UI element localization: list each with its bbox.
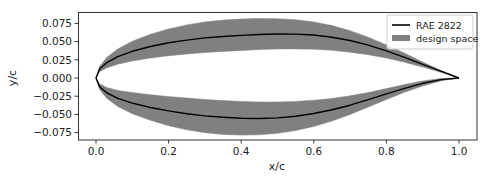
legend-label-design-space: design space xyxy=(416,33,479,44)
y-tick-label: −0.050 xyxy=(33,108,72,120)
y-tick-label: −0.025 xyxy=(33,90,72,102)
y-tick-label: 0.025 xyxy=(42,54,72,66)
x-axis-label: x/c xyxy=(269,160,285,173)
x-axis-ticks: 0.00.20.40.60.81.0 xyxy=(88,140,468,157)
x-tick-label: 0.8 xyxy=(378,145,395,157)
lower-design-band xyxy=(96,78,459,135)
x-tick-label: 0.0 xyxy=(88,145,105,157)
x-tick-label: 1.0 xyxy=(451,145,468,157)
x-tick-label: 0.6 xyxy=(305,145,322,157)
x-tick-label: 0.4 xyxy=(233,145,250,157)
y-tick-label: 0.000 xyxy=(42,72,72,84)
y-tick-label: 0.075 xyxy=(42,17,72,29)
y-axis-ticks: 0.0750.0500.0250.000−0.025−0.050−0.075 xyxy=(33,17,78,138)
legend-label-rae2822: RAE 2822 xyxy=(416,20,462,31)
airfoil-chart: 0.00.20.40.60.81.0 0.0750.0500.0250.000−… xyxy=(0,0,494,179)
legend-patch-icon xyxy=(392,35,410,41)
y-tick-label: 0.050 xyxy=(42,35,72,47)
x-tick-label: 0.2 xyxy=(160,145,177,157)
y-tick-label: −0.075 xyxy=(33,126,72,138)
legend: RAE 2822 design space xyxy=(387,15,479,49)
y-axis-label: y/c xyxy=(6,70,19,86)
